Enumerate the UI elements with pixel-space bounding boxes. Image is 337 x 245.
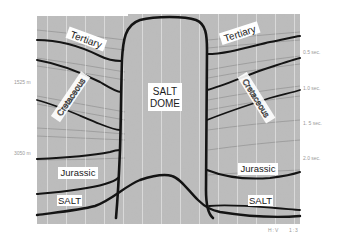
svg-text:SALT: SALT: [153, 86, 177, 97]
time-tick-1-5: 1. 5 sec.: [303, 120, 322, 126]
seismic-section-svg: Tertiary Tertiary Cretaceous Cretaceous …: [0, 0, 337, 245]
depth-tick-3050: 3050 m: [14, 150, 31, 156]
label-jurassic-right: Jurassic: [238, 163, 278, 175]
svg-text:Jurassic: Jurassic: [61, 167, 96, 178]
time-tick-2-0: 2.0 sec.: [303, 155, 321, 161]
time-tick-0-5: 0.5 sec.: [303, 49, 321, 55]
label-salt-left: SALT: [57, 195, 82, 206]
svg-text:DOME: DOME: [150, 98, 180, 109]
seismic-figure: Tertiary Tertiary Cretaceous Cretaceous …: [0, 0, 337, 245]
scale-note: H:V 1:3: [268, 227, 299, 233]
label-jurassic-left: Jurassic: [58, 167, 98, 179]
svg-text:SALT: SALT: [249, 195, 272, 206]
svg-text:SALT: SALT: [58, 195, 81, 206]
label-salt-right: SALT: [248, 195, 273, 206]
label-salt-dome: SALT DOME: [148, 83, 182, 111]
depth-tick-1525: 1525 m: [14, 79, 31, 85]
time-tick-1-0: 1.0 sec.: [303, 85, 321, 91]
svg-text:Jurassic: Jurassic: [241, 163, 276, 174]
